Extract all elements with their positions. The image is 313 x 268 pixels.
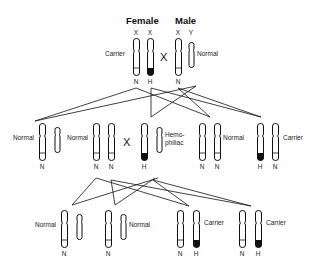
male-header: Male xyxy=(175,15,196,26)
gen3-normal-male2-x xyxy=(106,211,112,248)
gen2-hemophiliac-male-y xyxy=(157,128,162,153)
gen2-child5-allele-2: N xyxy=(269,163,281,170)
gen2-carrier-female-x2 xyxy=(273,124,279,161)
gen2-normal-female-x1 xyxy=(94,124,100,161)
gen3-child3-allele-2: H xyxy=(190,250,202,257)
gen2-normal-male-y xyxy=(55,128,60,153)
gen1-male-x xyxy=(176,39,182,76)
gen1-male-status: Normal xyxy=(197,50,218,57)
gen3-carrier-female2-x2 xyxy=(256,211,262,248)
gen1-female-chr-label-1: X xyxy=(130,29,142,36)
gen3-child4-allele-2: H xyxy=(252,250,264,257)
gen2-child3-allele: H xyxy=(138,163,150,170)
gen2-normal-female2-x2 xyxy=(215,124,221,161)
gen3-carrier-female1-x2 xyxy=(194,211,200,248)
gen1-male-chr-label-1: X xyxy=(172,29,184,36)
gen2-normal-male-x xyxy=(40,124,46,161)
gen3-child2-status: Normal xyxy=(129,221,150,228)
gen2-child1-allele: N xyxy=(36,163,48,170)
gen2-hemophiliac-male-x xyxy=(142,124,148,161)
gen3-normal-male2-y xyxy=(121,215,126,240)
gen1-male-y xyxy=(189,43,194,68)
female-header: Female xyxy=(126,15,159,26)
gen2-child2-allele-1: N xyxy=(90,163,102,170)
gen1-female-status: Carrier xyxy=(105,50,125,57)
cross-symbol-gen1: X xyxy=(160,51,167,63)
gen2-child2-allele-2: N xyxy=(105,163,117,170)
gen2-child5-allele-1: H xyxy=(254,163,266,170)
gen3-child4-allele-1: N xyxy=(236,250,248,257)
gen1-female-chr-label-2: X xyxy=(144,29,156,36)
gen3-child3-status: Carrier xyxy=(204,219,224,226)
cross-symbol-gen2: X xyxy=(123,136,130,148)
gen3-child1-allele: N xyxy=(58,250,70,257)
gen2-child4-status: Normal xyxy=(223,134,244,141)
gen1-female-x2 xyxy=(148,39,154,76)
gen1-male-chr-label-2: Y xyxy=(185,29,197,36)
inheritance-lines-gen1 xyxy=(35,86,261,121)
gen3-child2-allele: N xyxy=(102,250,114,257)
gen3-carrier-female2-x1 xyxy=(240,211,246,248)
inheritance-lines-gen2 xyxy=(72,178,251,206)
gen3-child3-allele-1: N xyxy=(174,250,186,257)
gen2-child1-status: Normal xyxy=(13,134,34,141)
gen1-male-allele: N xyxy=(172,78,184,85)
gen2-normal-female-x2 xyxy=(109,124,115,161)
gen2-child2-status: Normal xyxy=(67,134,88,141)
gen3-normal-male1-x xyxy=(62,211,68,248)
gen3-carrier-female1-x1 xyxy=(178,211,184,248)
gen2-child4-allele-2: N xyxy=(211,163,223,170)
gen1-female-allele-1: N xyxy=(130,78,142,85)
gen2-child4-allele-1: N xyxy=(196,163,208,170)
gen1-female-x1 xyxy=(134,39,140,76)
gen1-female-allele-2: H xyxy=(144,78,156,85)
gen2-carrier-female-x1 xyxy=(258,124,264,161)
gen3-child1-status: Normal xyxy=(35,221,56,228)
gen2-child3-status-line2: philiac xyxy=(165,139,183,146)
gen3-normal-male1-y xyxy=(77,215,82,240)
gen3-child4-status: Carrier xyxy=(266,219,286,226)
gen2-child3-status-line1: Hemo- xyxy=(165,131,185,138)
gen2-child5-status: Carrier xyxy=(283,134,303,141)
gen2-normal-female2-x1 xyxy=(200,124,206,161)
